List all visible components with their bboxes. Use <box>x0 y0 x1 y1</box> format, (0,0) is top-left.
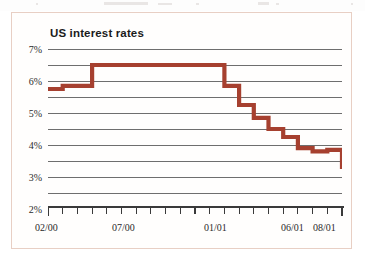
x-tick-label: 02/00 <box>35 222 58 233</box>
x-tick-label: 01/01 <box>204 222 227 233</box>
x-tick-label: 08/01 <box>313 222 336 233</box>
x-axis-with-ticks <box>48 206 344 220</box>
chart-figure-frame: US interest rates 7% 6% 5% 4% 3% 2% 02/0… <box>11 12 352 249</box>
y-tick-label: 4% <box>12 140 42 151</box>
y-tick-label: 5% <box>12 108 42 119</box>
plot-area <box>48 49 342 209</box>
chart-plot-svg <box>48 49 342 209</box>
y-tick-label: 2% <box>12 204 42 215</box>
y-tick-label: 3% <box>12 172 42 183</box>
x-tick-label: 06/01 <box>281 222 304 233</box>
y-tick-label: 6% <box>12 76 42 87</box>
x-tick-label: 07/00 <box>112 222 135 233</box>
scan-artifact-strip <box>0 0 365 11</box>
y-tick-label: 7% <box>12 44 42 55</box>
